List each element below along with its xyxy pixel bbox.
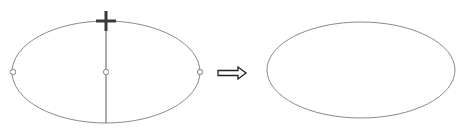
- diagram-canvas: [0, 0, 466, 136]
- transform-arrow-icon: [218, 67, 246, 79]
- handles-group: [11, 70, 203, 75]
- right-handle[interactable]: [198, 70, 203, 75]
- move-cursor-icon: [96, 11, 116, 31]
- before-group: [11, 11, 203, 123]
- left-handle[interactable]: [11, 70, 16, 75]
- after-ellipse[interactable]: [267, 22, 455, 118]
- after-group: [267, 22, 455, 118]
- center-handle[interactable]: [104, 70, 109, 75]
